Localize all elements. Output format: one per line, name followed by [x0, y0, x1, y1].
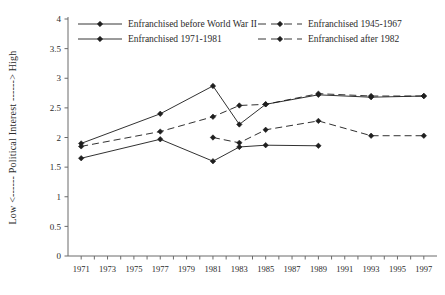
data-point-marker [158, 129, 163, 134]
y-tick-label: 2 [57, 133, 62, 143]
data-point-marker [78, 156, 83, 161]
x-tick-label: 1989 [310, 264, 327, 274]
x-tick-label: 1995 [389, 264, 406, 274]
chart-legend: Enfranchised before World War IIEnfranch… [78, 19, 402, 44]
x-tick-label: 1971 [73, 264, 90, 274]
data-point-marker [158, 137, 163, 142]
legend-label-text: Enfranchised after 1982 [308, 34, 400, 44]
x-tick-label: 1979 [178, 264, 195, 274]
x-tick-label: 1981 [204, 264, 221, 274]
x-tick-label: 1993 [363, 264, 380, 274]
y-tick-label: 0.5 [50, 222, 62, 232]
x-tick-label: 1991 [336, 264, 353, 274]
y-tick-label: 4 [57, 14, 62, 24]
x-tick-label: 1985 [257, 264, 274, 274]
data-point-marker [421, 133, 426, 138]
legend-item-enfranchised-after-1982: Enfranchised after 1982 [258, 34, 400, 44]
data-point-marker [263, 143, 268, 148]
series-group [78, 83, 426, 164]
data-point-marker [210, 159, 215, 164]
data-point-marker [368, 133, 373, 138]
series-line [81, 139, 318, 161]
data-point-marker [210, 135, 215, 140]
data-point-marker [277, 21, 282, 26]
legend-label-text: Enfranchised 1945-1967 [308, 19, 402, 29]
x-tick-label: 1975 [125, 264, 142, 274]
y-tick-label: 0 [57, 251, 62, 261]
data-point-marker [237, 103, 242, 108]
y-axis-ticks: 00.511.522.533.54 [50, 14, 68, 261]
y-tick-label: 1.5 [50, 162, 62, 172]
legend-label-text: Enfranchised before World War II [128, 19, 257, 29]
data-point-marker [210, 83, 215, 88]
x-tick-label: 1987 [284, 264, 301, 274]
y-tick-label: 1 [57, 192, 62, 202]
y-axis-title: Low <------ Political Interest ------> H… [7, 51, 18, 225]
data-point-marker [277, 36, 282, 41]
data-point-marker [316, 143, 321, 148]
legend-item-enfranchised-before-wwii: Enfranchised before World War II [78, 19, 257, 29]
y-tick-label: 2.5 [50, 103, 62, 113]
legend-label-text: Enfranchised 1971-1981 [128, 34, 222, 44]
data-point-marker [210, 114, 215, 119]
series-enfranchised-1971-1981 [78, 137, 321, 164]
legend-item-enfranchised-1971-1981: Enfranchised 1971-1981 [78, 34, 222, 44]
data-point-marker [97, 21, 102, 26]
axes [68, 17, 437, 256]
data-point-marker [97, 36, 102, 41]
series-line [81, 94, 424, 147]
y-tick-label: 3.5 [50, 44, 62, 54]
series-enfranchised-1945-1967 [78, 91, 426, 149]
data-point-marker [263, 127, 268, 132]
x-tick-label: 1977 [152, 264, 169, 274]
x-tick-label: 1983 [231, 264, 248, 274]
chart-figure: 00.511.522.533.5419711973197519771979198… [0, 0, 445, 295]
y-tick-label: 3 [57, 73, 62, 83]
political-interest-line-chart: 00.511.522.533.5419711973197519771979198… [0, 0, 445, 295]
data-point-marker [316, 118, 321, 123]
data-point-marker [421, 93, 426, 98]
x-axis-ticks: 1971197319751977197919811983198519871989… [73, 256, 433, 274]
series-line [213, 121, 424, 143]
y-axis-title-text: Low <------ Political Interest ------> H… [7, 51, 18, 225]
x-tick-label: 1997 [415, 264, 432, 274]
x-tick-label: 1973 [99, 264, 116, 274]
legend-item-enfranchised-1945-1967: Enfranchised 1945-1967 [258, 19, 402, 29]
data-point-marker [158, 111, 163, 116]
data-point-marker [237, 140, 242, 145]
